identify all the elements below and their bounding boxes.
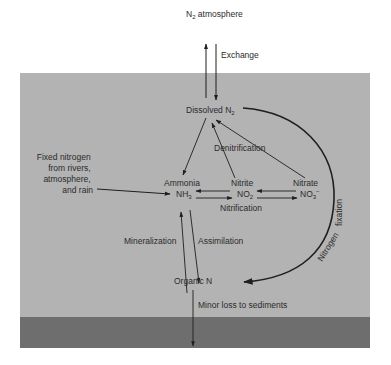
sediment-loss-label: Minor loss to sediments [198, 300, 287, 310]
dissolved-n2-label: Dissolved N2 [186, 105, 235, 116]
exchange-label: Exchange [221, 50, 259, 60]
nitrogen-fixation-label-2: fixation [334, 199, 344, 226]
assimilation-label: Assimilation [198, 236, 244, 246]
nitrification-label: Nitrification [220, 203, 262, 213]
nitrate-label: Nitrate [293, 178, 318, 188]
ammonia-label: Ammonia [164, 178, 200, 188]
denitrification-label: Denitrification [214, 143, 266, 153]
atmosphere-label: N2 atmosphere [186, 9, 243, 20]
organic-n-label: Organic N [174, 276, 212, 286]
nitrogen-cycle-diagram: N2 atmosphere Exchange Dissolved N2 Deni… [0, 0, 391, 365]
nitrite-label: Nitrite [231, 178, 253, 188]
mineralization-label: Mineralization [124, 236, 177, 246]
sediment-layer [20, 317, 370, 348]
